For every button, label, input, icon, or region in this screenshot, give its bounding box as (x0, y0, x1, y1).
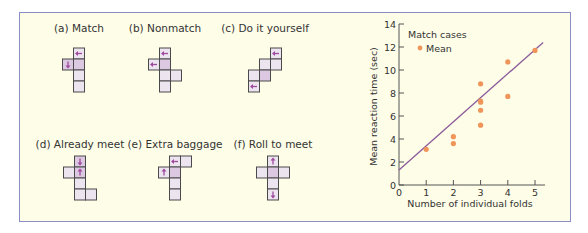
x-tick-label: 4 (505, 187, 511, 198)
legend-title: Match cases (408, 29, 467, 40)
data-point (505, 94, 510, 99)
figure-canvas: 02468101214012345Number of individual fo… (0, 0, 588, 233)
scatter-chart: 02468101214012345Number of individual fo… (368, 19, 545, 210)
cube-net (159, 156, 192, 200)
x-axis-label: Number of individual folds (407, 198, 532, 209)
y-tick-label: 10 (384, 65, 396, 76)
legend-entry: Mean (426, 43, 452, 54)
data-point (478, 81, 483, 86)
x-tick-label: 2 (450, 187, 456, 198)
y-tick-label: 6 (390, 111, 396, 122)
legend-marker (418, 46, 423, 51)
data-point (424, 147, 429, 152)
y-tick-label: 2 (390, 157, 396, 168)
data-point (478, 100, 483, 105)
x-tick-label: 5 (532, 187, 538, 198)
data-point (478, 123, 483, 128)
cube-net (64, 156, 97, 200)
data-point (451, 141, 456, 146)
data-point (478, 108, 483, 113)
cube-net (149, 48, 182, 92)
y-tick-label: 4 (390, 134, 396, 145)
cube-net (257, 156, 290, 200)
y-tick-label: 14 (384, 19, 396, 30)
y-tick-label: 8 (390, 88, 396, 99)
data-point (505, 59, 510, 64)
cube-net (249, 48, 282, 92)
x-tick-label: 1 (423, 187, 429, 198)
x-tick-label: 0 (396, 187, 402, 198)
x-tick-label: 3 (478, 187, 484, 198)
y-tick-label: 12 (384, 42, 396, 53)
data-point (451, 134, 456, 139)
cube-net (63, 48, 85, 92)
fit-line (399, 42, 543, 170)
data-point (532, 48, 537, 53)
y-axis-label: Mean reaction time (sec) (368, 47, 379, 166)
